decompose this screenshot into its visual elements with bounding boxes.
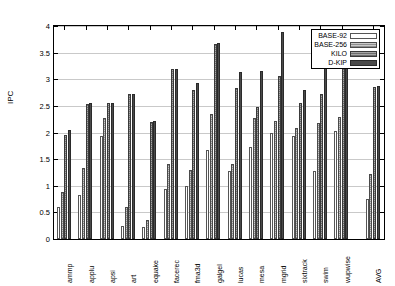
legend-label: D-KIP <box>328 59 347 66</box>
x-axis-label-lucas: lucas <box>237 267 244 283</box>
legend-label: BASE-256 <box>314 41 347 48</box>
bar-base-92-applu <box>78 195 81 239</box>
x-axis-tick-labels: ammpappluapsiartequakefacerecfma3dgalgel… <box>53 241 385 286</box>
chart-legend: BASE-92BASE-256KILOD-KIP <box>311 29 380 69</box>
y-axis-tick-label: 2.5 <box>40 101 50 110</box>
bar-kilo-mgrid <box>278 76 281 239</box>
y-axis-tick-label: 1.5 <box>40 155 50 164</box>
bar-group <box>100 26 115 239</box>
x-axis-label-apsi: apsi <box>109 270 116 283</box>
y-axis-tick-labels: 00.511.522.533.54 <box>24 25 50 240</box>
bar-base-256-wupwise <box>338 117 341 239</box>
legend-item-base-92: BASE-92 <box>314 31 377 40</box>
bar-d-kip-equake <box>153 121 156 239</box>
bar-base-256-lucas <box>231 164 234 239</box>
bar-kilo-applu <box>86 104 89 239</box>
bar-d-kip-mesa <box>260 71 263 239</box>
bar-base-92-swim <box>313 171 316 239</box>
legend-item-kilo: KILO <box>314 49 377 58</box>
bar-base-92-sixtrack <box>292 136 295 239</box>
bar-d-kip-galgel <box>217 43 220 239</box>
y-axis-tick <box>54 239 58 240</box>
bar-base-92-avg <box>366 199 369 239</box>
bar-base-92-wupwise <box>334 131 337 239</box>
legend-item-d-kip: D-KIP <box>314 58 377 67</box>
y-axis-tick-label: 4 <box>46 22 50 31</box>
y-axis-tick-label: 0.5 <box>40 208 50 217</box>
bar-base-256-apsi <box>103 118 106 239</box>
x-axis-label-art: art <box>130 275 137 283</box>
ipc-bar-chart: IPC 00.511.522.533.54 BASE-92BASE-256KIL… <box>0 0 395 286</box>
bar-kilo-sixtrack <box>299 103 302 239</box>
bar-group <box>228 26 243 239</box>
bar-d-kip-avg <box>377 86 380 239</box>
bar-d-kip-apsi <box>111 103 114 239</box>
bar-base-92-mgrid <box>270 133 273 240</box>
bar-base-256-avg <box>369 174 372 239</box>
bar-base-256-galgel <box>210 114 213 239</box>
bar-base-92-fma3d <box>185 186 188 239</box>
legend-label: KILO <box>331 50 347 57</box>
bar-kilo-facerec <box>171 69 174 239</box>
x-axis-label-mesa: mesa <box>258 266 265 283</box>
plot-area: BASE-92BASE-256KILOD-KIP <box>53 25 385 240</box>
bar-group <box>249 26 264 239</box>
x-axis-label-sixtrack: sixtrack <box>301 259 308 283</box>
bar-base-92-art <box>121 226 124 239</box>
bar-base-256-equake <box>146 220 149 239</box>
bar-d-kip-sixtrack <box>303 90 306 239</box>
legend-swatch <box>350 42 377 48</box>
bar-base-92-mesa <box>249 147 252 239</box>
x-axis-label-avg: AVG <box>375 269 382 283</box>
bar-base-92-apsi <box>100 136 103 239</box>
bar-base-256-facerec <box>167 164 170 239</box>
bar-base-256-swim <box>317 123 320 239</box>
bar-kilo-mesa <box>256 107 259 239</box>
bar-group <box>78 26 93 239</box>
y-axis-title: IPC <box>6 91 15 104</box>
bar-kilo-fma3d <box>192 90 195 239</box>
bar-base-256-fma3d <box>189 170 192 239</box>
bar-base-92-equake <box>142 227 145 239</box>
bar-base-92-galgel <box>206 150 209 239</box>
bar-base-92-lucas <box>228 171 231 239</box>
bar-group <box>121 26 136 239</box>
bar-group <box>206 26 221 239</box>
bar-d-kip-facerec <box>175 69 178 239</box>
bar-base-256-ammp <box>61 192 64 239</box>
x-axis-label-facerec: facerec <box>173 260 180 283</box>
bar-base-92-facerec <box>164 189 167 239</box>
bar-base-256-art <box>125 207 128 239</box>
bar-kilo-apsi <box>107 103 110 239</box>
x-axis-label-swim: swim <box>322 267 329 283</box>
legend-item-base-256: BASE-256 <box>314 40 377 49</box>
bar-kilo-art <box>128 94 131 239</box>
bar-base-92-ammp <box>57 207 60 239</box>
bar-group <box>270 26 285 239</box>
bar-kilo-ammp <box>64 135 67 239</box>
bar-group <box>142 26 157 239</box>
bar-d-kip-art <box>132 94 135 239</box>
legend-swatch <box>350 33 377 39</box>
legend-swatch <box>350 60 377 66</box>
y-axis-tick-label: 2 <box>46 128 50 137</box>
bar-d-kip-swim <box>324 50 327 239</box>
x-axis-label-wupwise: wupwise <box>344 256 351 283</box>
y-axis-tick-label: 3 <box>46 75 50 84</box>
y-axis-tick <box>380 239 384 240</box>
bar-kilo-swim <box>320 94 323 239</box>
bar-kilo-galgel <box>214 44 217 239</box>
bar-group <box>292 26 307 239</box>
bar-group <box>164 26 179 239</box>
bar-d-kip-ammp <box>68 130 71 239</box>
bar-base-256-sixtrack <box>295 128 298 239</box>
x-axis-label-ammp: ammp <box>66 264 73 283</box>
bar-d-kip-applu <box>89 103 92 239</box>
legend-label: BASE-92 <box>318 32 347 39</box>
x-axis-label-applu: applu <box>88 266 95 283</box>
y-axis-tick-label: 1 <box>46 181 50 190</box>
x-axis-label-mgrid: mgrid <box>280 265 287 283</box>
bar-d-kip-mgrid <box>281 32 284 239</box>
y-axis-tick-label: 0 <box>46 235 50 244</box>
x-axis-label-galgel: galgel <box>216 264 223 283</box>
